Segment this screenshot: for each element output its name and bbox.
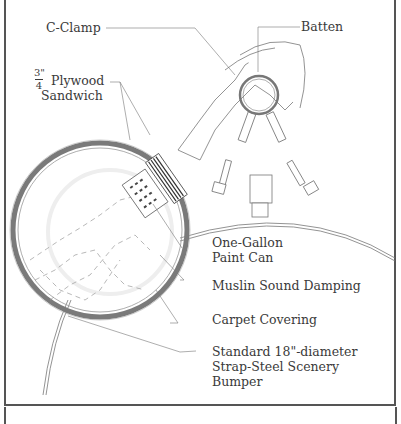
- label-plywood-line1: Plywood: [51, 74, 104, 88]
- label-bumper-line3: Bumper: [212, 375, 262, 389]
- label-bumper-line2: Strap-Steel Scenery: [212, 360, 339, 374]
- label-paint-can-line1: One-Gallon: [212, 236, 283, 250]
- plywood-sandwich: [119, 153, 187, 221]
- label-bumper-line1: Standard 18"-diameter: [212, 345, 357, 359]
- label-plywood-line2: Sandwich: [41, 89, 103, 103]
- bumper-illustration: [0, 0, 401, 424]
- label-paint-can-line2: Paint Can: [212, 251, 273, 265]
- label-batten: Batten: [301, 20, 343, 34]
- plywood-fraction-numerator: 3": [34, 68, 44, 78]
- label-muslin: Muslin Sound Damping: [212, 279, 361, 293]
- label-c-clamp: C-Clamp: [46, 21, 101, 35]
- label-carpet: Carpet Covering: [212, 313, 317, 327]
- c-clamp: [178, 42, 319, 217]
